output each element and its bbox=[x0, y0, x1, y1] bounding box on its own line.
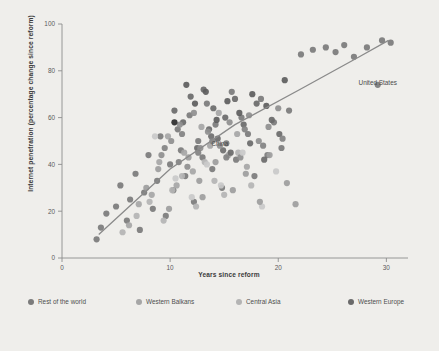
data-point bbox=[243, 171, 249, 177]
data-point bbox=[198, 124, 204, 130]
data-point bbox=[221, 192, 227, 198]
data-point bbox=[126, 222, 132, 228]
data-point bbox=[174, 182, 180, 188]
data-point bbox=[310, 47, 316, 53]
data-point bbox=[171, 119, 177, 125]
legend-dot-icon bbox=[236, 299, 242, 305]
data-point bbox=[143, 185, 149, 191]
y-tick-label: 40 bbox=[48, 161, 56, 168]
data-point bbox=[157, 133, 163, 139]
point-annotation: United States bbox=[359, 79, 397, 86]
data-point bbox=[196, 178, 202, 184]
data-point bbox=[94, 236, 100, 242]
data-point bbox=[150, 206, 156, 212]
data-point bbox=[162, 145, 168, 151]
legend-dot-icon bbox=[136, 299, 142, 305]
data-point bbox=[188, 93, 194, 99]
data-point bbox=[282, 77, 288, 83]
data-point bbox=[247, 140, 253, 146]
data-point bbox=[209, 166, 215, 172]
data-point bbox=[323, 44, 329, 50]
data-point bbox=[183, 82, 189, 88]
data-point bbox=[257, 199, 263, 205]
legend-dot-icon bbox=[28, 299, 34, 305]
data-point bbox=[189, 194, 195, 200]
data-point bbox=[156, 159, 162, 165]
data-point bbox=[254, 100, 260, 106]
data-point bbox=[155, 166, 161, 172]
data-point bbox=[136, 201, 142, 207]
chart-legend: Rest of the worldWestern BalkansCentral … bbox=[28, 294, 432, 342]
data-point bbox=[249, 91, 255, 97]
data-point bbox=[261, 157, 267, 163]
data-point bbox=[229, 89, 235, 95]
data-point bbox=[211, 178, 217, 184]
data-point bbox=[204, 100, 210, 106]
data-point bbox=[171, 107, 177, 113]
data-point bbox=[199, 194, 205, 200]
data-point bbox=[168, 138, 174, 144]
data-point bbox=[244, 164, 250, 170]
data-point bbox=[113, 203, 119, 209]
data-point bbox=[218, 182, 224, 188]
data-point bbox=[341, 42, 347, 48]
data-point bbox=[184, 164, 190, 170]
data-point bbox=[193, 203, 199, 209]
data-point bbox=[177, 122, 183, 128]
data-point bbox=[132, 171, 138, 177]
x-tick-label: 10 bbox=[167, 264, 175, 271]
y-tick-label: 0 bbox=[51, 254, 55, 261]
data-point bbox=[103, 210, 109, 216]
data-point bbox=[234, 131, 240, 137]
data-point bbox=[242, 126, 248, 132]
data-point bbox=[145, 152, 151, 158]
x-tick-label: 0 bbox=[60, 264, 64, 271]
legend-item[interactable]: Central Asia bbox=[236, 294, 348, 309]
fitted-line-group bbox=[99, 40, 389, 234]
data-point bbox=[149, 192, 155, 198]
data-point bbox=[273, 168, 279, 174]
data-point bbox=[279, 136, 285, 142]
data-point bbox=[191, 110, 197, 116]
data-point bbox=[236, 110, 242, 116]
data-point bbox=[119, 229, 125, 235]
data-point bbox=[179, 131, 185, 137]
data-point bbox=[158, 152, 164, 158]
data-point bbox=[228, 150, 234, 156]
point-annotation: China bbox=[212, 140, 229, 147]
data-point bbox=[210, 105, 216, 111]
data-point bbox=[212, 159, 218, 165]
data-point bbox=[204, 161, 210, 167]
data-point bbox=[248, 182, 254, 188]
data-points-group bbox=[94, 37, 394, 242]
y-tick-label: 100 bbox=[44, 20, 55, 27]
legend-item-label: Western Europe bbox=[358, 298, 404, 305]
data-point bbox=[265, 124, 271, 130]
legend-item[interactable]: Western Balkans bbox=[136, 294, 236, 309]
data-point bbox=[146, 199, 152, 205]
data-point bbox=[152, 133, 158, 139]
x-tick-label: 30 bbox=[383, 264, 391, 271]
data-point bbox=[117, 182, 123, 188]
fitted-values-line bbox=[99, 40, 389, 234]
data-point bbox=[169, 187, 175, 193]
legend-dot-icon bbox=[348, 299, 354, 305]
legend-item[interactable]: Rest of the world bbox=[28, 294, 136, 309]
data-point bbox=[179, 173, 185, 179]
data-point bbox=[205, 129, 211, 135]
data-point bbox=[269, 117, 275, 123]
data-point bbox=[222, 115, 228, 121]
data-point bbox=[137, 227, 143, 233]
y-tick-label: 80 bbox=[48, 67, 56, 74]
data-point bbox=[223, 154, 229, 160]
y-axis-title: Internet penetration (percentage change … bbox=[27, 0, 34, 214]
data-point bbox=[181, 150, 187, 156]
legend-item[interactable]: Western Europe bbox=[348, 294, 439, 309]
data-point bbox=[167, 161, 173, 167]
legend-item-label: Rest of the world bbox=[38, 298, 86, 305]
data-point bbox=[172, 175, 178, 181]
data-point bbox=[127, 196, 133, 202]
data-point bbox=[332, 49, 338, 55]
data-point bbox=[278, 145, 284, 151]
data-point bbox=[298, 51, 304, 57]
